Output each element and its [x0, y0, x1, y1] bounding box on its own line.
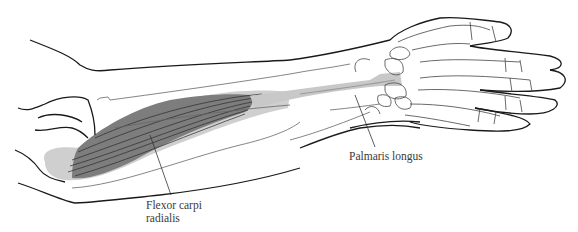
forearm-illustration — [0, 0, 578, 232]
palmaris-longus-leader — [355, 95, 375, 147]
palmaris-longus-tendon — [300, 80, 395, 94]
label-palmaris-longus: Palmaris longus — [349, 150, 423, 163]
label-flexor-carpi-radialis: Flexor carpi radialis — [146, 199, 202, 225]
